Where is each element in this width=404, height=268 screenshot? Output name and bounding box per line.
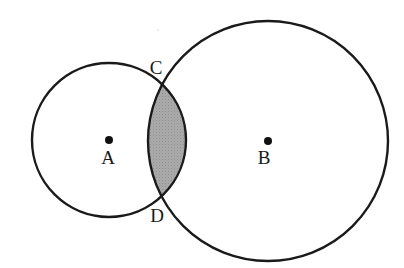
two-circles-figure: A B C D [0, 0, 404, 268]
diagram-canvas: A B C D [0, 0, 404, 268]
label-center-a: A [101, 147, 115, 168]
label-point-c: C [150, 57, 163, 78]
center-dot-b [264, 137, 272, 145]
label-center-b: B [258, 147, 271, 168]
label-point-d: D [150, 205, 164, 226]
center-dot-a [105, 136, 113, 144]
scan-speck-icon [157, 29, 159, 31]
